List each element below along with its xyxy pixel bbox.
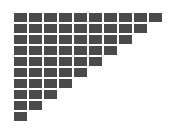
pattern-block [104,24,117,33]
pattern-block [74,68,87,77]
pattern-block [14,24,27,33]
pattern-block [74,46,87,55]
pattern-block [59,24,72,33]
pattern-block [59,79,72,88]
pattern-block [14,90,27,99]
pattern-block [74,57,87,66]
pattern-block [14,46,27,55]
pattern-block [59,57,72,66]
pattern-block [59,13,72,22]
pattern-block [104,35,117,44]
pattern-block [44,35,57,44]
pattern-block [119,13,132,22]
pattern-block [14,101,27,110]
pattern-block [119,35,132,44]
pattern-block [149,13,162,22]
pattern-block [89,35,102,44]
pattern-block [44,57,57,66]
pattern-block [89,57,102,66]
pattern-block [29,90,42,99]
staircase-pattern-canvas [0,0,182,130]
pattern-block [29,13,42,22]
pattern-block [29,57,42,66]
pattern-block [29,35,42,44]
pattern-block [59,68,72,77]
pattern-block [89,24,102,33]
pattern-block [29,79,42,88]
pattern-block [134,24,147,33]
pattern-block [14,68,27,77]
pattern-block [14,57,27,66]
pattern-block [44,24,57,33]
pattern-block [44,13,57,22]
pattern-block [104,46,117,55]
pattern-block [29,68,42,77]
pattern-block [134,13,147,22]
pattern-block [29,46,42,55]
pattern-block [59,46,72,55]
pattern-block [119,24,132,33]
pattern-block [59,35,72,44]
pattern-block [44,68,57,77]
pattern-block [14,112,27,121]
pattern-block [14,13,27,22]
pattern-block [104,13,117,22]
pattern-block [14,35,27,44]
pattern-block [14,79,27,88]
pattern-block [44,79,57,88]
pattern-block [29,101,42,110]
pattern-block [74,24,87,33]
pattern-block [89,46,102,55]
pattern-block [74,13,87,22]
pattern-block [89,13,102,22]
pattern-block [74,35,87,44]
pattern-block [44,90,57,99]
pattern-block [29,24,42,33]
pattern-block [44,46,57,55]
